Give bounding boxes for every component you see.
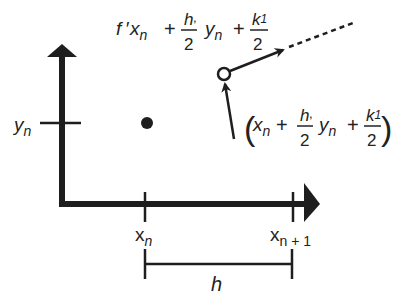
svg-text:k1: k1 <box>366 106 381 125</box>
rk-midpoint-diagram: yn xn xn + 1 h f ′ xn + h , 2 yn + k1 2 … <box>0 0 395 297</box>
svg-text:,: , <box>193 10 197 25</box>
svg-text:+: + <box>233 18 245 40</box>
x-tick-label-xn: xn <box>135 224 153 249</box>
y-tick-label: yn <box>12 114 32 139</box>
svg-text:2: 2 <box>367 131 376 150</box>
svg-text:,: , <box>309 106 313 121</box>
svg-text:2: 2 <box>300 131 309 150</box>
svg-text:yn: yn <box>203 18 223 43</box>
svg-text:): ) <box>381 109 392 147</box>
slope-extension-dashed <box>289 23 353 47</box>
svg-text:+: + <box>276 114 288 136</box>
svg-text:k1: k1 <box>252 10 267 29</box>
svg-text:yn: yn <box>317 114 337 139</box>
current-point <box>141 117 153 129</box>
svg-text:2: 2 <box>253 35 262 54</box>
midpoint-label: ( xn + h , 2 yn + k1 2 ) <box>244 106 392 150</box>
slope-label: f ′ xn + h , 2 yn + k1 2 <box>116 10 268 54</box>
svg-text:2: 2 <box>184 35 193 54</box>
x-tick-label-xn1: xn + 1 <box>270 224 311 249</box>
svg-text:+: + <box>347 114 359 136</box>
y-axis-arrow-icon <box>47 44 77 57</box>
midpoint-pointer-arrow <box>225 84 234 139</box>
svg-text:xn: xn <box>129 18 148 43</box>
x-axis-arrow-icon <box>304 183 320 222</box>
step-size-label: h <box>211 273 222 295</box>
svg-text:f ′: f ′ <box>116 18 130 39</box>
midpoint <box>218 68 230 80</box>
svg-text:+: + <box>164 18 176 40</box>
